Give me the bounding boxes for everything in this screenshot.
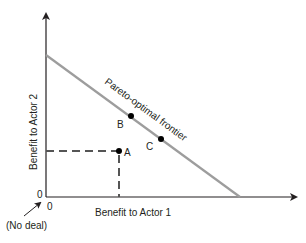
y-origin-label: 0	[37, 189, 43, 200]
x-origin-label: 0	[47, 201, 53, 212]
point-c-label: C	[146, 141, 153, 152]
no-deal-label: (No deal)	[6, 220, 47, 231]
point-b-marker	[128, 113, 134, 119]
frontier-label: Pareto-optimal frontier	[103, 76, 190, 144]
point-b-label: B	[117, 119, 124, 130]
point-a-marker	[116, 148, 122, 154]
point-c-marker	[158, 136, 164, 142]
y-axis-label: Benefit to Actor 2	[28, 93, 39, 170]
no-deal-arrow	[24, 203, 40, 216]
x-axis-label: Benefit to Actor 1	[95, 207, 172, 218]
pareto-diagram: A B C Pareto-optimal frontier Benefit to…	[0, 0, 306, 243]
point-a-label: A	[124, 147, 131, 158]
pareto-frontier-line	[46, 55, 240, 197]
